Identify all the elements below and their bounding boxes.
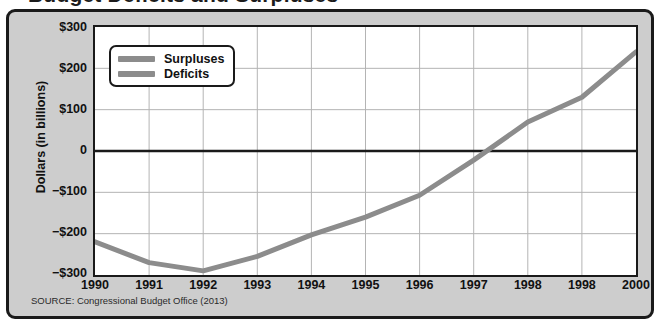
y-tick-100: $100: [35, 103, 87, 116]
source-note: SOURCE: Congressional Budget Office (201…: [31, 295, 228, 306]
x-tick-7: 1997: [460, 278, 488, 292]
y-tick-neg100: −$100: [35, 185, 87, 198]
x-tick-10: 2000: [622, 278, 650, 292]
y-axis-tick-labels: $300 $200 $100 0 −$100 −$200 −$300: [31, 12, 87, 316]
x-tick-6: 1996: [406, 278, 434, 292]
x-tick-9: 1998: [568, 278, 596, 292]
x-tick-2: 1992: [189, 278, 217, 292]
y-tick-neg300: −$300: [35, 267, 87, 280]
x-tick-4: 1994: [297, 278, 325, 292]
chart-figure-container: CHAPTER 15 Dollars (in billions) $300 $2…: [6, 9, 654, 319]
x-tick-3: 1993: [243, 278, 271, 292]
legend-item-deficits: Deficits: [118, 66, 224, 81]
x-tick-5: 1995: [352, 278, 380, 292]
x-tick-0: 1990: [81, 278, 109, 292]
y-tick-300: $300: [35, 21, 87, 34]
legend-item-surpluses: Surpluses: [118, 51, 224, 66]
legend-swatch-deficits: [118, 71, 155, 77]
y-tick-200: $200: [35, 62, 87, 75]
legend-label-deficits: Deficits: [164, 67, 209, 81]
chart-legend: Surpluses Deficits: [109, 45, 235, 87]
y-tick-0: 0: [35, 144, 87, 157]
x-tick-8: 1998: [514, 278, 542, 292]
legend-swatch-surpluses: [118, 56, 155, 62]
page-title: Budget Deficits and Surpluses: [28, 0, 338, 7]
x-tick-1: 1991: [135, 278, 163, 292]
chart-title-strip: Budget Deficits and Surpluses: [0, 0, 662, 8]
legend-label-surpluses: Surpluses: [164, 52, 224, 66]
y-tick-neg200: −$200: [35, 226, 87, 239]
